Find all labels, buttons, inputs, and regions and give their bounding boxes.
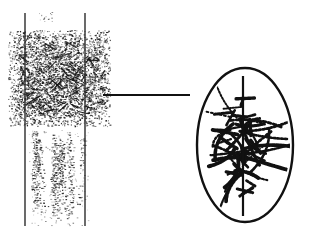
figure-canvas [0,0,313,239]
figure-root [0,0,313,239]
figure-background [0,0,313,239]
